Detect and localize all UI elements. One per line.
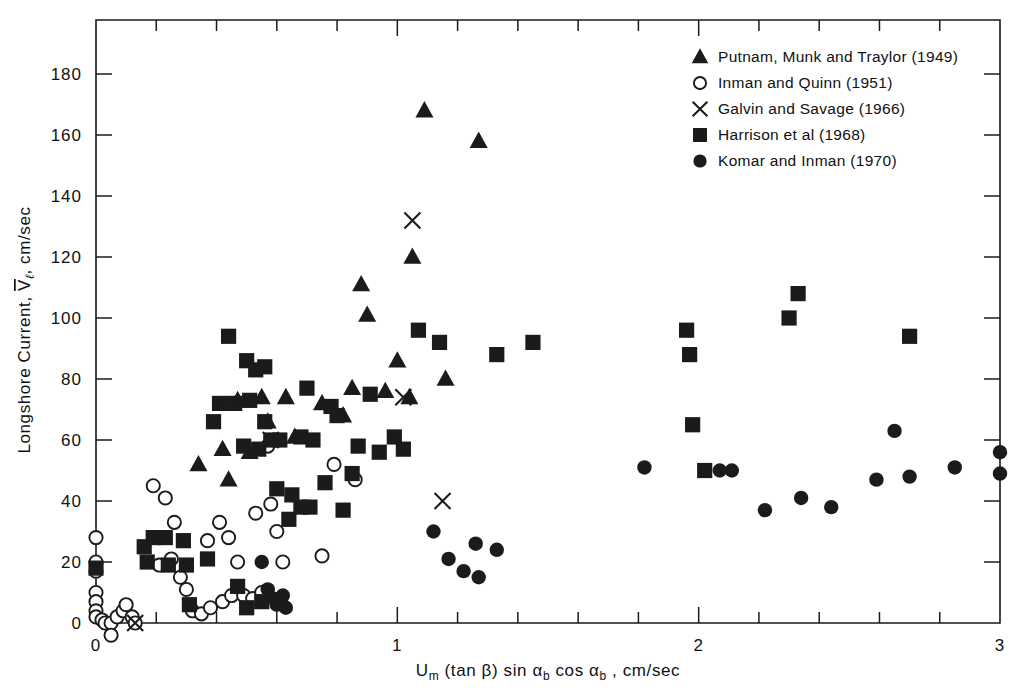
data-point xyxy=(201,534,214,547)
data-point xyxy=(758,503,772,517)
data-point xyxy=(902,469,916,483)
data-point xyxy=(432,335,447,350)
data-point xyxy=(230,579,245,594)
data-point xyxy=(276,555,289,568)
legend-marker-filled-circle-icon xyxy=(693,154,706,167)
y-tick-label: 40 xyxy=(61,492,82,511)
data-point xyxy=(376,382,394,398)
data-point xyxy=(335,503,350,518)
x-tick-label: 1 xyxy=(392,636,402,655)
data-point xyxy=(305,432,320,447)
data-point xyxy=(281,512,296,527)
figure-container: 0204060801001201401601800123 Putnam, Mun… xyxy=(0,0,1018,691)
data-point xyxy=(415,101,433,117)
data-point xyxy=(88,561,103,576)
data-point xyxy=(182,597,197,612)
data-point xyxy=(993,445,1007,459)
data-point xyxy=(189,455,207,471)
data-point xyxy=(794,491,808,505)
data-point xyxy=(470,132,488,148)
data-point xyxy=(441,552,455,566)
data-point xyxy=(279,601,293,615)
data-point xyxy=(89,531,102,544)
legend-marker-open-circle-icon xyxy=(694,77,706,89)
data-point xyxy=(200,551,215,566)
data-point xyxy=(249,507,262,520)
data-point xyxy=(176,533,191,548)
data-point xyxy=(277,388,295,404)
data-point xyxy=(140,554,155,569)
data-point xyxy=(213,516,226,529)
data-point xyxy=(206,414,221,429)
data-point xyxy=(212,396,227,411)
y-tick-label: 60 xyxy=(61,431,82,450)
data-point xyxy=(679,323,694,338)
data-point xyxy=(255,555,269,569)
data-point xyxy=(869,472,883,486)
data-point xyxy=(358,305,376,321)
data-point xyxy=(302,500,317,515)
data-point xyxy=(276,588,290,602)
data-point xyxy=(490,543,504,557)
data-point xyxy=(781,310,796,325)
y-tick-label: 140 xyxy=(51,187,82,206)
series-2 xyxy=(89,440,361,642)
data-point xyxy=(372,445,387,460)
data-point xyxy=(993,466,1007,480)
series-4 xyxy=(88,286,917,615)
data-point xyxy=(317,475,332,490)
data-point xyxy=(158,530,173,545)
y-tick-label: 160 xyxy=(51,126,82,145)
data-point xyxy=(351,439,366,454)
y-tick-label: 120 xyxy=(51,248,82,267)
data-point xyxy=(435,493,451,509)
data-point xyxy=(388,351,406,367)
data-point xyxy=(948,460,962,474)
data-point xyxy=(489,347,504,362)
data-point xyxy=(104,629,117,642)
legend-marker-cross-icon xyxy=(693,102,708,117)
data-point xyxy=(257,359,272,374)
data-point xyxy=(637,460,651,474)
data-point xyxy=(403,248,421,264)
data-point xyxy=(327,458,340,471)
data-point xyxy=(685,417,700,432)
x-tick-label: 0 xyxy=(91,636,101,655)
data-point xyxy=(204,601,217,614)
data-point xyxy=(147,479,160,492)
legend-label: Inman and Quinn (1951) xyxy=(718,74,893,91)
data-point xyxy=(242,393,257,408)
data-point xyxy=(239,600,254,615)
data-point xyxy=(227,396,242,411)
y-tick-label: 20 xyxy=(61,553,82,572)
y-tick-label: 100 xyxy=(51,309,82,328)
data-point xyxy=(396,442,411,457)
legend-label: Harrison et al (1968) xyxy=(718,126,866,143)
data-point xyxy=(456,564,470,578)
series-5 xyxy=(255,424,1008,615)
data-point xyxy=(315,549,328,562)
data-point xyxy=(525,335,540,350)
data-point xyxy=(352,275,370,291)
data-point xyxy=(180,583,193,596)
data-point xyxy=(269,481,284,496)
y-tick-label: 0 xyxy=(72,614,82,633)
data-point xyxy=(179,557,194,572)
data-point xyxy=(257,414,272,429)
scatter-plot-svg: 0204060801001201401601800123 Putnam, Mun… xyxy=(0,0,1018,691)
x-axis-title: Um (tan β) sin αb cos αb , cm/sec xyxy=(416,661,680,683)
data-point xyxy=(168,516,181,529)
legend-marker-triangle-icon xyxy=(692,48,709,63)
data-point xyxy=(251,442,266,457)
y-axis-title: Longshore Current, Vℓ, cm/sec xyxy=(15,206,37,453)
data-point xyxy=(231,555,244,568)
data-point xyxy=(426,524,440,538)
data-point xyxy=(902,329,917,344)
data-point xyxy=(159,491,172,504)
data-point xyxy=(222,531,235,544)
data-points-layer xyxy=(88,101,1007,642)
data-point xyxy=(220,470,238,486)
data-point xyxy=(411,323,426,338)
data-point xyxy=(468,537,482,551)
series-1 xyxy=(189,101,487,486)
